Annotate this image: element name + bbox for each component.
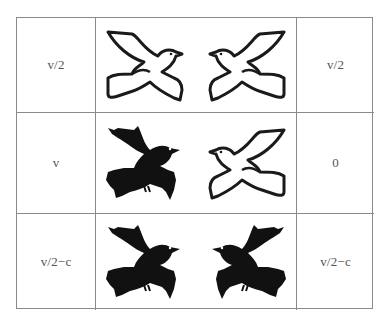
left-payoff: v/2−c bbox=[41, 254, 72, 270]
hawk-icon bbox=[206, 225, 288, 299]
right-payoff-cell: v/2 bbox=[297, 18, 374, 113]
encounter-cell bbox=[96, 18, 297, 113]
left-payoff: v/2 bbox=[47, 57, 64, 73]
left-payoff-cell: v bbox=[17, 113, 96, 214]
left-payoff: v bbox=[53, 155, 60, 171]
right-payoff: v/2−c bbox=[320, 254, 351, 270]
encounter-cell bbox=[96, 214, 297, 310]
left-payoff-cell: v/2 bbox=[17, 18, 96, 113]
hawk-icon bbox=[104, 225, 186, 299]
right-payoff-cell: v/2−c bbox=[297, 214, 374, 310]
dove-icon bbox=[104, 28, 186, 102]
right-payoff: v/2 bbox=[327, 57, 344, 73]
left-payoff-cell: v/2−c bbox=[17, 214, 96, 310]
encounter-cell bbox=[96, 113, 297, 214]
right-payoff: 0 bbox=[332, 155, 339, 171]
right-payoff-cell: 0 bbox=[297, 113, 374, 214]
dove-icon bbox=[206, 28, 288, 102]
hawk-dove-payoff-table: v/2 v/2 v 0 v/2−c v/2−c bbox=[16, 17, 373, 309]
dove-icon bbox=[206, 126, 288, 200]
hawk-icon bbox=[104, 126, 186, 200]
